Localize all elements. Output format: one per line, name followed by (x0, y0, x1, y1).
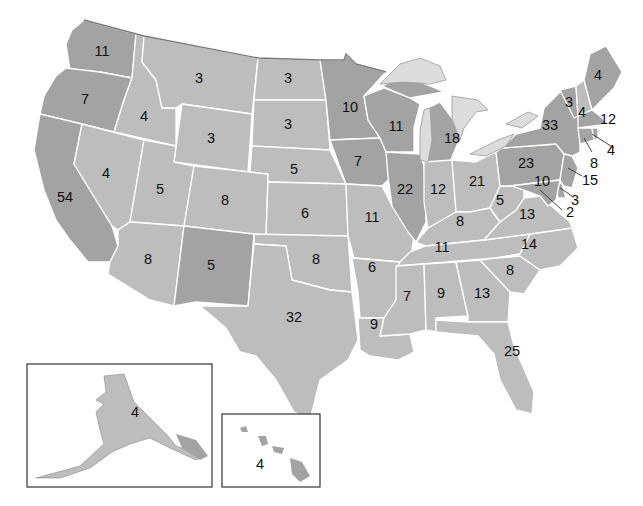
label-fl: 25 (504, 343, 520, 359)
label-or: 7 (81, 91, 89, 107)
label-mt: 3 (195, 70, 203, 86)
label-va: 13 (519, 206, 535, 222)
label-nh: 4 (578, 104, 586, 120)
label-pa: 23 (518, 155, 534, 171)
label-dc: 2 (566, 204, 574, 220)
label-ca: 54 (57, 189, 73, 205)
label-sd: 3 (284, 116, 292, 132)
lake-ontario (506, 112, 538, 128)
label-me: 4 (594, 67, 602, 83)
label-ky: 8 (456, 213, 464, 229)
state-me[interactable] (584, 46, 622, 110)
label-oh: 21 (469, 173, 485, 189)
label-nj: 15 (582, 172, 598, 188)
label-co: 8 (221, 192, 229, 208)
label-wv: 5 (496, 192, 504, 208)
label-wi: 11 (388, 118, 403, 134)
label-wy: 3 (207, 130, 215, 146)
label-ga: 13 (474, 285, 490, 301)
label-mi: 18 (444, 130, 460, 146)
label-vt: 3 (565, 94, 573, 110)
label-hi: 4 (256, 456, 264, 472)
label-mn: 10 (342, 99, 358, 115)
label-id: 4 (140, 108, 148, 124)
label-wa: 11 (94, 43, 109, 59)
label-tx: 32 (286, 309, 302, 325)
lake-superior (380, 58, 446, 84)
us-electoral-map: 11 7 54 4 4 3 3 5 8 8 5 3 3 5 6 8 32 10 … (0, 0, 643, 506)
label-nm: 5 (207, 257, 215, 273)
label-sc: 8 (506, 262, 514, 278)
label-la: 9 (370, 316, 378, 332)
label-ks: 6 (301, 205, 309, 221)
label-nc: 14 (521, 236, 537, 252)
label-al: 9 (437, 285, 445, 301)
label-nv: 4 (102, 165, 110, 181)
label-mo: 11 (364, 209, 379, 225)
label-il: 22 (397, 181, 413, 197)
state-nj[interactable] (560, 154, 578, 188)
label-ar: 6 (368, 259, 376, 275)
label-ct: 8 (590, 155, 598, 171)
label-ne: 5 (290, 161, 298, 177)
label-az: 8 (144, 251, 152, 267)
label-ia: 7 (354, 153, 362, 169)
label-nd: 3 (284, 70, 292, 86)
label-ms: 7 (403, 288, 411, 304)
label-md: 10 (534, 173, 550, 189)
state-fl[interactable] (436, 320, 534, 414)
label-ri: 4 (607, 142, 615, 158)
label-ok: 8 (312, 251, 320, 267)
label-ut: 5 (156, 181, 164, 197)
label-ak: 4 (131, 404, 139, 420)
label-tn: 11 (434, 239, 449, 255)
label-ny: 33 (542, 117, 558, 133)
label-in: 12 (430, 181, 446, 197)
label-ma: 12 (600, 111, 616, 127)
